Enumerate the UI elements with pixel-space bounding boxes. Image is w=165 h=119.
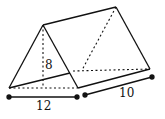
height-label: 8	[45, 58, 53, 72]
dimension-endpoint	[83, 93, 87, 97]
bottom-right-edge	[78, 69, 150, 88]
ridge-edge	[43, 7, 116, 25]
prism-solid-edges	[9, 7, 150, 88]
front-diagonal-edge	[9, 73, 70, 88]
dimension-endpoint	[150, 75, 154, 79]
back-right-edge	[116, 7, 150, 69]
dimension-endpoint	[7, 95, 11, 99]
dimension-endpoint	[75, 95, 79, 99]
back-base-hidden	[73, 69, 150, 71]
length-label: 10	[119, 86, 134, 100]
back-left-hidden	[82, 7, 116, 70]
base-width-label: 12	[36, 99, 51, 113]
front-left-edge	[9, 25, 43, 88]
triangular-prism-diagram: 8 12 10	[0, 0, 165, 119]
